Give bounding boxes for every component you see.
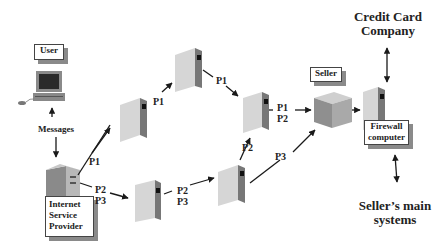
network-diagram: User Messages Internet Service Provider … [0, 0, 444, 248]
packet-p3: P3 [177, 196, 188, 207]
packet-label-p3-to-seller: P3 [275, 151, 286, 162]
seller-label: Seller [315, 68, 337, 78]
sellers-main-line-1: Seller’s main [350, 199, 440, 213]
credit-card-company-label: Credit Card Company [350, 10, 426, 38]
sellers-main-systems-label: Seller’s main systems [350, 199, 440, 227]
user-label: User [40, 45, 58, 55]
packet-label-top: P1 [216, 75, 227, 86]
packet-label-bottom-right-up: P2 [242, 142, 253, 153]
messages-label: Messages [28, 124, 84, 135]
seller-label-box: Seller [310, 67, 342, 82]
isp-label-line-2: Service [49, 210, 90, 221]
packet-p3: P3 [95, 195, 106, 206]
packet-label-bottom-mid: P2 P3 [177, 185, 188, 207]
isp-label-box: Internet Service Provider [45, 196, 94, 237]
firewall-label-line-2: computer [365, 132, 408, 143]
firewall-label-box: Firewall computer [364, 120, 409, 145]
router-mid-left-icon [120, 98, 147, 142]
packet-p2: P2 [277, 113, 288, 124]
packet-label-isp-right: P2 P3 [95, 184, 106, 206]
sellers-main-line-2: systems [350, 213, 440, 227]
packet-p1: P1 [277, 102, 288, 113]
credit-card-line-1: Credit Card [350, 10, 426, 24]
isp-label-line-1: Internet [49, 199, 90, 210]
packet-p2: P2 [95, 184, 106, 195]
isp-label-line-3: Provider [49, 221, 90, 232]
packet-label-to-seller: P1 P2 [277, 102, 288, 124]
firewall-label-line-1: Firewall [365, 121, 408, 132]
packet-label-mid-left: P1 [153, 96, 164, 107]
seller-server-icon [314, 92, 352, 128]
packet-p2: P2 [177, 185, 188, 196]
user-label-box: User [34, 44, 64, 60]
credit-card-line-2: Company [350, 24, 426, 38]
packet-label-isp-up: P1 [89, 156, 100, 167]
